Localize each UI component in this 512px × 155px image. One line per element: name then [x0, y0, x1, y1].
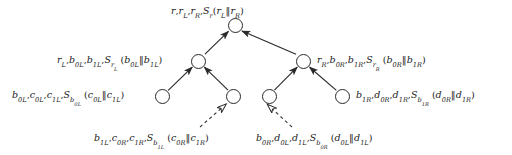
label-mid-left: rL,b0L,b1L,SrL (b0L‖b1L): [57, 55, 162, 66]
edge-leaf1-midleft: [168, 67, 192, 90]
label-leaf-4: b1R,d0R,d1R,Sb1R (d0R‖d1R): [356, 90, 475, 101]
node-mid-left[interactable]: [191, 54, 206, 69]
edge-leaf2-midleft: [204, 67, 228, 90]
node-leaf-3[interactable]: [262, 89, 277, 104]
label-callout-left: b1L,c0R,c1R,Sb1L (c0R‖c1R): [94, 133, 209, 144]
label-leaf-1: b0L,c0L,c1L,Sb0L (c0L‖c1L): [12, 90, 124, 101]
edge-midleft-root: [205, 31, 228, 54]
diagram-canvas: r,rL,rR,Sr(rL‖rR) rL,b0L,b1L,SrL (b0L‖b1…: [0, 0, 512, 155]
callout-pointer-right: [268, 105, 292, 127]
edge-leaf3-midright: [274, 67, 297, 90]
edge-leaf4-midright: [310, 67, 337, 90]
label-callout-right: b0R,d0L,d1L,Sb0R (d0L‖d1L): [256, 133, 372, 144]
node-mid-right[interactable]: [296, 54, 311, 69]
edge-midright-root: [242, 31, 296, 54]
node-leaf-2[interactable]: [226, 89, 241, 104]
node-root[interactable]: [228, 18, 243, 33]
callout-pointer-left: [200, 105, 226, 128]
label-root: r,rL,rR,Sr(rL‖rR): [171, 6, 244, 16]
node-leaf-1[interactable]: [155, 89, 170, 104]
label-mid-right: rR,b0R,b1R,SrR (b0R‖b1R): [317, 55, 426, 66]
node-leaf-4[interactable]: [335, 89, 350, 104]
